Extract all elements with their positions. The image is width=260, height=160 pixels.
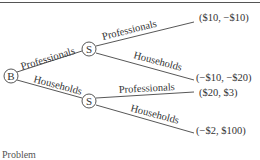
root-node-label: B xyxy=(7,70,14,82)
edge-label-t2-households: Households xyxy=(132,49,183,72)
bottom-caption-fragment: Problem xyxy=(2,149,36,160)
edge-label-b-households: Households xyxy=(32,73,83,96)
game-tree-diagram: B S S Professionals Households Professio… xyxy=(0,0,260,160)
edge-label-t1-professionals: Professionals xyxy=(101,18,158,42)
payoff-t1: ($10, −$10) xyxy=(199,12,249,24)
root-node-b: B xyxy=(4,69,18,83)
node-s-upper: S xyxy=(82,42,96,56)
payoff-t4: (−$2, $100) xyxy=(196,125,246,137)
payoff-t3: ($20, $3) xyxy=(199,87,238,99)
node-s-lower: S xyxy=(82,94,96,108)
payoff-t2: (−$10, −$20) xyxy=(196,72,252,84)
edge-label-b-professionals: Professionals xyxy=(19,45,76,72)
edge-label-t3-professionals: Professionals xyxy=(119,81,175,95)
node-s-upper-label: S xyxy=(86,43,92,55)
node-s-lower-label: S xyxy=(86,95,92,107)
